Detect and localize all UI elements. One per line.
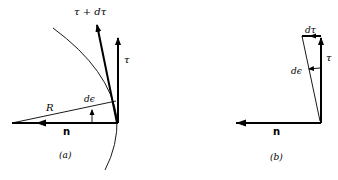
label-normal-b: n xyxy=(273,126,280,137)
tau-plus-dtau-vector xyxy=(97,25,117,123)
normal-arrowhead-a xyxy=(36,120,46,127)
panel-a: τ + dτ τ R dϵ n (a) xyxy=(12,6,130,170)
caption-b: (b) xyxy=(270,152,283,162)
caption-a: (a) xyxy=(59,150,72,160)
d-epsilon-arrow-b xyxy=(309,68,320,69)
label-tau-plus-dtau: τ + dτ xyxy=(74,6,107,17)
tau-plus-dtau-diagonal-b xyxy=(302,36,320,121)
label-tau-b: τ xyxy=(326,52,332,63)
label-normal-a: n xyxy=(63,126,70,137)
label-tau-a: τ xyxy=(124,54,130,65)
panel-b: dτ τ dϵ n (b) xyxy=(236,25,332,162)
normal-arrowhead-b xyxy=(236,120,246,127)
label-d-epsilon-a: dϵ xyxy=(84,94,95,104)
label-dtau: dτ xyxy=(305,25,317,35)
radius-line xyxy=(12,101,116,123)
tangent-vector-diagram: τ + dτ τ R dϵ n (a) dτ τ dϵ n (b) xyxy=(0,0,338,180)
label-radius: R xyxy=(45,102,54,113)
label-d-epsilon-b: dϵ xyxy=(291,66,302,76)
